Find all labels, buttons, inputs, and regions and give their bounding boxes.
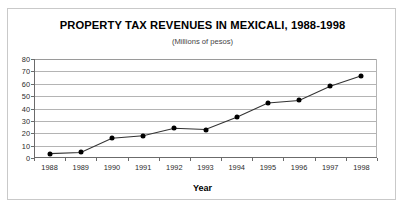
data-point-marker <box>328 84 333 89</box>
data-point-marker <box>234 115 239 120</box>
x-axis-tick <box>377 158 378 161</box>
x-axis-tick-label: 1990 <box>104 163 120 172</box>
data-point-marker <box>109 136 114 141</box>
y-axis-tick-label: 40 <box>22 104 30 113</box>
page-caption-text <box>14 206 389 216</box>
x-axis-tick <box>159 158 160 161</box>
x-axis-tick <box>315 158 316 161</box>
y-axis-tick-label: 80 <box>22 55 30 64</box>
x-axis-tick-label: 1996 <box>291 163 307 172</box>
data-point-marker <box>265 100 270 105</box>
plot-area: 01020304050607080 1988198919901991199219… <box>34 59 377 158</box>
y-axis-tick-label: 60 <box>22 79 30 88</box>
y-axis-tick-label: 50 <box>22 92 30 101</box>
x-axis-tick <box>34 158 35 161</box>
x-axis-tick <box>252 158 253 161</box>
y-axis-tick-label: 30 <box>22 116 30 125</box>
x-axis-tick-label: 1998 <box>353 163 369 172</box>
data-point-marker <box>47 151 52 156</box>
x-axis-tick-label: 1989 <box>73 163 89 172</box>
x-axis-tick-label: 1988 <box>41 163 57 172</box>
data-point-marker <box>141 133 146 138</box>
y-axis-tick-label: 0 <box>26 154 30 163</box>
x-axis-tick <box>96 158 97 161</box>
y-axis-tick-label: 10 <box>22 141 30 150</box>
y-axis-tick-label: 70 <box>22 67 30 76</box>
data-point-marker <box>359 73 364 78</box>
data-point-marker <box>203 127 208 132</box>
x-axis-tick <box>346 158 347 161</box>
x-axis-tick-label: 1995 <box>260 163 276 172</box>
data-series-line <box>34 59 377 158</box>
x-axis-tick-label: 1994 <box>228 163 244 172</box>
data-point-marker <box>78 150 83 155</box>
x-axis-tick-label: 1993 <box>197 163 213 172</box>
x-axis-tick-label: 1991 <box>135 163 151 172</box>
data-point-marker <box>297 98 302 103</box>
x-axis-tick <box>65 158 66 161</box>
x-axis-tick <box>221 158 222 161</box>
x-axis-tick <box>190 158 191 161</box>
y-axis-tick-label: 20 <box>22 129 30 138</box>
x-axis-title: Year <box>8 183 397 193</box>
x-axis-tick-label: 1992 <box>166 163 182 172</box>
x-axis-tick-label: 1997 <box>322 163 338 172</box>
data-point-marker <box>172 126 177 131</box>
chart-title: PROPERTY TAX REVENUES IN MEXICALI, 1988-… <box>8 19 397 31</box>
chart-subtitle: (Millions of pesos) <box>8 37 397 46</box>
x-axis-tick <box>283 158 284 161</box>
x-axis-tick <box>128 158 129 161</box>
chart-figure-frame: PROPERTY TAX REVENUES IN MEXICALI, 1988-… <box>7 8 396 200</box>
